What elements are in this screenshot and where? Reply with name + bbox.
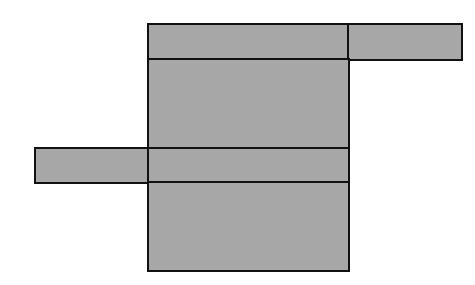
left-cell [34,147,150,184]
main-lower-middle-cell [147,147,350,184]
main-upper-middle-cell [147,58,350,150]
top-right-cell [347,23,463,61]
main-top-cell [147,23,350,61]
main-bottom-cell [147,181,350,272]
